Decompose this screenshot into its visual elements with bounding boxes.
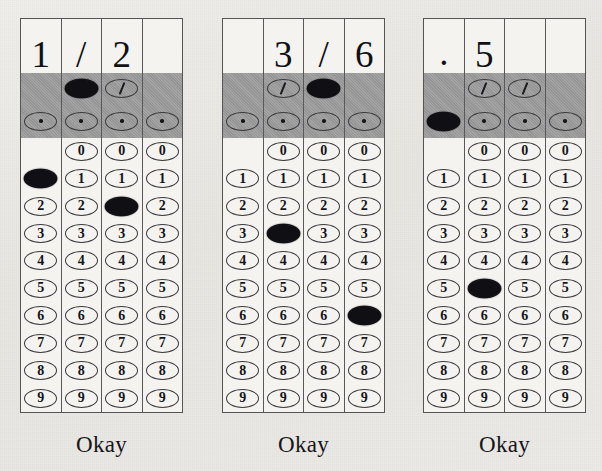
digit-bubble-0[interactable]: 0	[549, 142, 582, 161]
digit-bubble-1[interactable]: 1	[348, 169, 381, 188]
digit-bubble-4[interactable]: 4	[549, 251, 582, 270]
digit-bubble-9[interactable]: 9	[549, 389, 582, 408]
digit-bubble-5[interactable]: 5	[508, 279, 541, 298]
written-answer-cell[interactable]: 1	[21, 19, 61, 73]
digit-bubble-9[interactable]: 9	[226, 389, 259, 408]
decimal-bubble[interactable]	[307, 112, 340, 131]
decimal-bubble[interactable]	[348, 112, 381, 131]
digit-bubble-2[interactable]: 2	[65, 197, 98, 216]
written-answer-cell[interactable]: 3	[264, 19, 304, 73]
digit-bubble-3[interactable]: 3	[468, 224, 501, 243]
digit-bubble-1[interactable]: 1	[226, 169, 259, 188]
digit-bubble-2[interactable]: 2	[146, 197, 179, 216]
digit-bubble-5[interactable]: 5	[24, 279, 57, 298]
digit-bubble-3[interactable]: 3	[348, 224, 381, 243]
digit-bubble-8[interactable]: 8	[267, 361, 300, 380]
digit-bubble-4[interactable]: 4	[105, 251, 138, 270]
digit-bubble-9[interactable]: 9	[508, 389, 541, 408]
decimal-bubble[interactable]	[65, 112, 98, 131]
digit-bubble-4[interactable]: 4	[65, 251, 98, 270]
digit-bubble-1[interactable]: 1	[267, 169, 300, 188]
digit-bubble-3[interactable]: 3	[307, 224, 340, 243]
digit-bubble-5[interactable]: 5	[226, 279, 259, 298]
digit-bubble-9[interactable]: 9	[146, 389, 179, 408]
digit-bubble-9[interactable]: 9	[105, 389, 138, 408]
decimal-bubble[interactable]	[508, 112, 541, 131]
digit-bubble-1[interactable]: 1	[508, 169, 541, 188]
written-answer-cell[interactable]: /	[62, 19, 102, 73]
digit-bubble-4[interactable]: 4	[508, 251, 541, 270]
digit-bubble-8[interactable]: 8	[24, 361, 57, 380]
slash-bubble[interactable]	[267, 79, 300, 98]
digit-bubble-7[interactable]: 7	[24, 334, 57, 353]
digit-bubble-4[interactable]: 4	[267, 251, 300, 270]
digit-bubble-6[interactable]: 6	[267, 306, 300, 325]
digit-bubble-5[interactable]: 5	[468, 279, 501, 298]
digit-bubble-0[interactable]: 0	[65, 142, 98, 161]
digit-bubble-8[interactable]: 8	[348, 361, 381, 380]
digit-bubble-4[interactable]: 4	[146, 251, 179, 270]
digit-bubble-1[interactable]: 1	[146, 169, 179, 188]
written-answer-cell[interactable]: 6	[345, 19, 385, 73]
slash-bubble[interactable]	[508, 79, 541, 98]
digit-bubble-2[interactable]: 2	[24, 197, 57, 216]
digit-bubble-8[interactable]: 8	[105, 361, 138, 380]
digit-bubble-2[interactable]: 2	[105, 197, 138, 216]
digit-bubble-3[interactable]: 3	[427, 224, 460, 243]
digit-bubble-6[interactable]: 6	[508, 306, 541, 325]
written-answer-cell[interactable]	[505, 19, 545, 73]
digit-bubble-3[interactable]: 3	[508, 224, 541, 243]
digit-bubble-2[interactable]: 2	[427, 197, 460, 216]
digit-bubble-9[interactable]: 9	[468, 389, 501, 408]
written-answer-cell[interactable]: .	[424, 19, 464, 73]
digit-bubble-6[interactable]: 6	[307, 306, 340, 325]
written-answer-cell[interactable]: 2	[102, 19, 142, 73]
digit-bubble-4[interactable]: 4	[307, 251, 340, 270]
digit-bubble-4[interactable]: 4	[348, 251, 381, 270]
written-answer-cell[interactable]	[223, 19, 263, 73]
digit-bubble-3[interactable]: 3	[24, 224, 57, 243]
digit-bubble-2[interactable]: 2	[267, 197, 300, 216]
digit-bubble-1[interactable]: 1	[105, 169, 138, 188]
decimal-bubble[interactable]	[105, 112, 138, 131]
digit-bubble-8[interactable]: 8	[427, 361, 460, 380]
slash-bubble[interactable]	[105, 79, 138, 98]
digit-bubble-6[interactable]: 6	[65, 306, 98, 325]
digit-bubble-6[interactable]: 6	[468, 306, 501, 325]
digit-bubble-0[interactable]: 0	[468, 142, 501, 161]
digit-bubble-8[interactable]: 8	[549, 361, 582, 380]
digit-bubble-9[interactable]: 9	[427, 389, 460, 408]
digit-bubble-7[interactable]: 7	[427, 334, 460, 353]
digit-bubble-5[interactable]: 5	[307, 279, 340, 298]
digit-bubble-0[interactable]: 0	[105, 142, 138, 161]
digit-bubble-4[interactable]: 4	[24, 251, 57, 270]
digit-bubble-9[interactable]: 9	[65, 389, 98, 408]
digit-bubble-6[interactable]: 6	[105, 306, 138, 325]
digit-bubble-5[interactable]: 5	[65, 279, 98, 298]
digit-bubble-8[interactable]: 8	[65, 361, 98, 380]
digit-bubble-9[interactable]: 9	[24, 389, 57, 408]
digit-bubble-7[interactable]: 7	[508, 334, 541, 353]
written-answer-cell[interactable]: 5	[465, 19, 505, 73]
digit-bubble-3[interactable]: 3	[267, 224, 300, 243]
digit-bubble-8[interactable]: 8	[307, 361, 340, 380]
decimal-bubble[interactable]	[24, 112, 57, 131]
digit-bubble-5[interactable]: 5	[549, 279, 582, 298]
digit-bubble-9[interactable]: 9	[348, 389, 381, 408]
slash-bubble[interactable]	[307, 79, 340, 98]
digit-bubble-3[interactable]: 3	[549, 224, 582, 243]
digit-bubble-2[interactable]: 2	[226, 197, 259, 216]
digit-bubble-8[interactable]: 8	[146, 361, 179, 380]
digit-bubble-2[interactable]: 2	[508, 197, 541, 216]
digit-bubble-4[interactable]: 4	[468, 251, 501, 270]
digit-bubble-5[interactable]: 5	[427, 279, 460, 298]
digit-bubble-1[interactable]: 1	[549, 169, 582, 188]
digit-bubble-2[interactable]: 2	[348, 197, 381, 216]
digit-bubble-6[interactable]: 6	[549, 306, 582, 325]
digit-bubble-9[interactable]: 9	[267, 389, 300, 408]
digit-bubble-5[interactable]: 5	[105, 279, 138, 298]
digit-bubble-1[interactable]: 1	[427, 169, 460, 188]
written-answer-cell[interactable]: /	[304, 19, 344, 73]
digit-bubble-7[interactable]: 7	[105, 334, 138, 353]
digit-bubble-6[interactable]: 6	[146, 306, 179, 325]
